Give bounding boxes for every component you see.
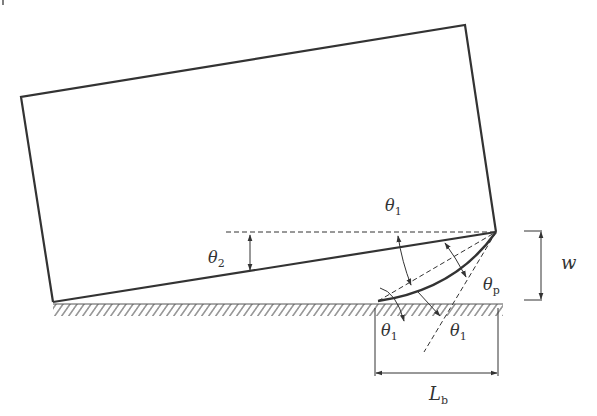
label-theta1-top: θ1 (385, 196, 402, 218)
ground-hatching (53, 304, 503, 316)
tilted-block (21, 25, 496, 302)
ground (53, 304, 503, 316)
block-tilt-diagram: θ1 θ2 θp θ1 θ1 w Lb (0, 0, 597, 416)
block-outline (21, 25, 496, 302)
label-w: w (561, 252, 577, 273)
label-lb: Lb (428, 383, 448, 407)
theta1-top-arc (398, 236, 411, 285)
label-theta-p: θp (483, 275, 500, 297)
label-theta2: θ2 (208, 248, 225, 270)
label-theta1-bottom-left: θ1 (381, 321, 398, 343)
w-dimension (524, 231, 542, 300)
label-theta1-bottom-right: θ1 (450, 321, 467, 343)
block-bottom-edge (53, 232, 496, 302)
